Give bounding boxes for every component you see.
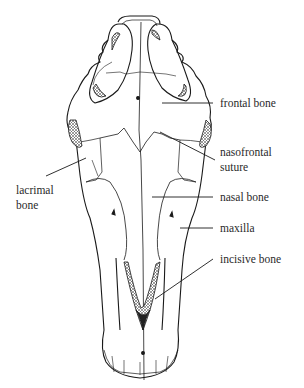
label-incisive-bone: incisive bone [220, 253, 281, 266]
label-frontal-bone: frontal bone [220, 97, 276, 110]
label-nasofrontal-suture-1: nasofrontal [220, 146, 272, 159]
leader-incisive [155, 259, 213, 299]
label-maxilla: maxilla [220, 222, 255, 235]
label-lacrimal-bone-1: lacrimal [16, 184, 54, 197]
label-nasal-bone: nasal bone [220, 191, 269, 204]
label-nasofrontal-suture-2: suture [220, 161, 248, 174]
skull-outline [67, 16, 211, 380]
label-lacrimal-bone-2: bone [16, 199, 38, 212]
